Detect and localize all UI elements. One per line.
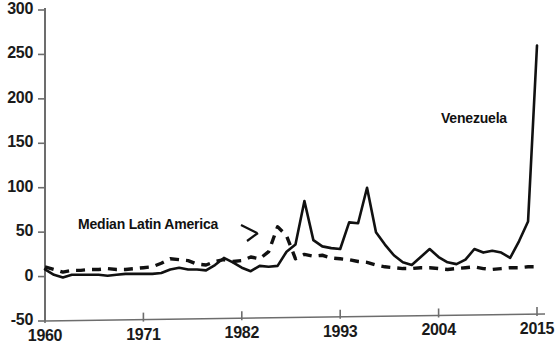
y-tick-label-300: 300 — [0, 0, 33, 18]
x-tick-label-1960: 1960 — [5, 327, 85, 345]
median-leader-arrow-tail — [247, 233, 258, 241]
median-leader-arrow — [241, 225, 257, 233]
x-tick-label-2015: 2015 — [497, 320, 559, 338]
y-tick-label-50: 50 — [0, 222, 33, 240]
y-tick-label-150: 150 — [0, 133, 33, 151]
x-tick-label-2004: 2004 — [399, 321, 479, 339]
y-tick-label-250: 250 — [0, 44, 33, 62]
footer-caption — [140, 349, 420, 357]
y-tick-label-100: 100 — [0, 178, 33, 196]
y-tick-label-0: 0 — [0, 267, 33, 285]
x-tick-label-1982: 1982 — [202, 324, 282, 342]
y-axis-ticks — [38, 10, 45, 321]
y-tick-label-200: 200 — [0, 89, 33, 107]
x-axis-line — [45, 314, 545, 321]
annotation-leader-lines — [241, 225, 258, 241]
series-annotation-venezuela: Venezuela — [441, 110, 507, 126]
x-tick-label-1993: 1993 — [300, 323, 380, 341]
x-tick-label-1971: 1971 — [103, 326, 183, 344]
data-series — [45, 46, 537, 278]
series-annotation-median-latin-america: Median Latin America — [78, 216, 218, 232]
